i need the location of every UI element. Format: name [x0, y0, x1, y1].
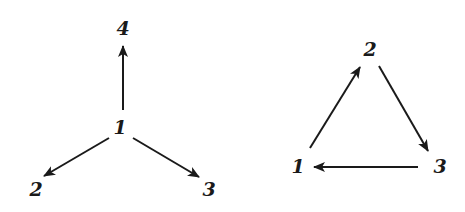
edge-1-to-3 [133, 138, 199, 177]
node-label-1: 1 [291, 155, 304, 177]
node-label-3: 3 [433, 155, 446, 177]
node-label-4: 4 [116, 17, 129, 39]
edge-1-to-2 [310, 67, 360, 148]
edge-2-to-3 [379, 66, 428, 151]
node-label-3: 3 [202, 178, 215, 200]
node-label-2: 2 [362, 38, 376, 60]
star-graph: 1 2 3 4 [28, 17, 215, 200]
node-label-1: 1 [113, 116, 126, 138]
node-label-2: 2 [28, 178, 42, 200]
cycle-graph: 1 2 3 [291, 38, 446, 177]
edge-1-to-2 [44, 138, 109, 176]
diagram-canvas: 1 2 3 4 1 2 3 [0, 0, 465, 212]
